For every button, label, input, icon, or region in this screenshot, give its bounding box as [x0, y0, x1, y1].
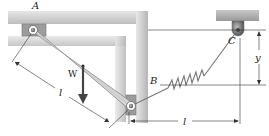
label-c: C — [228, 35, 236, 46]
label-y: y — [254, 52, 261, 63]
label-w: W — [68, 69, 78, 79]
frame-inner — [8, 36, 126, 122]
spring — [135, 31, 237, 104]
mechanism-diagram: y l l A B C W — [0, 0, 269, 136]
support-c — [216, 10, 259, 36]
label-l-horizontal: l — [183, 116, 186, 127]
dimension-l-bar — [12, 34, 128, 128]
label-l-bar: l — [59, 87, 62, 98]
label-a: A — [31, 0, 39, 11]
label-b: B — [149, 75, 157, 86]
